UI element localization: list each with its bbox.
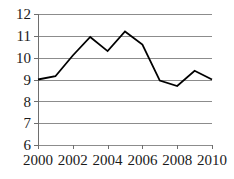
x-tick-label-2010: 2010: [197, 152, 227, 168]
gridlines: [38, 15, 212, 146]
y-tick-label-10: 10: [16, 50, 31, 66]
x-tick-label-2008: 2008: [162, 152, 192, 168]
y-tick-label-7: 7: [24, 115, 32, 131]
y-axis: [34, 14, 39, 146]
y-tick-label-11: 11: [17, 28, 31, 44]
y-tick-label-9: 9: [24, 72, 32, 88]
y-axis-tick-labels: 6789101112: [16, 6, 32, 153]
line-chart: 6789101112 200020022004200620082010: [0, 0, 234, 179]
x-tick-label-2004: 2004: [93, 152, 124, 168]
x-tick-label-2000: 2000: [23, 152, 53, 168]
y-tick-label-6: 6: [24, 137, 32, 153]
y-tick-label-8: 8: [24, 94, 32, 110]
chart-canvas: 6789101112 200020022004200620082010: [0, 0, 234, 179]
y-tick-label-12: 12: [16, 6, 31, 22]
x-tick-label-2002: 2002: [58, 152, 88, 168]
x-tick-label-2006: 2006: [127, 152, 158, 168]
x-axis-tick-labels: 200020022004200620082010: [23, 152, 227, 168]
